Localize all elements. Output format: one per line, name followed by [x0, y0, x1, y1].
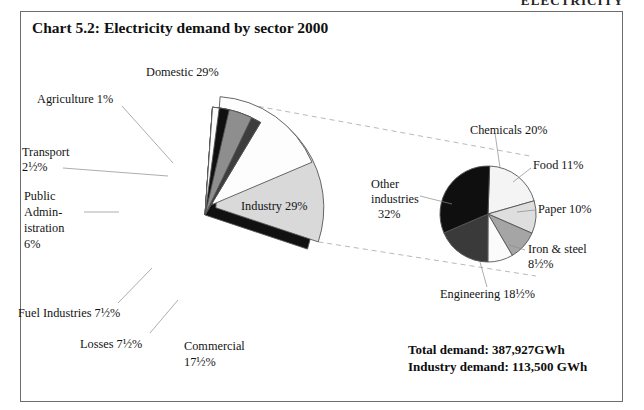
label-paper: Paper 10% [538, 203, 592, 217]
main-pie-slices [205, 97, 324, 249]
label-public-admin-line4: 6% [24, 238, 40, 252]
label-transport-line2: 2½% [22, 161, 48, 175]
label-food: Food 11% [533, 159, 583, 173]
totals-block: Total demand: 387,927GWh Industry demand… [408, 342, 587, 375]
label-other-industries-line3: 32% [378, 208, 401, 222]
label-public-admin-line2: Admin- [24, 206, 62, 220]
label-transport-line1: Transport [22, 146, 69, 160]
label-engineering: Engineering 18½% [440, 288, 535, 302]
label-other-industries-line2: industries [371, 193, 419, 207]
label-iron-steel-line2: 8½% [528, 258, 554, 272]
label-chemicals: Chemicals 20% [470, 124, 548, 138]
total-demand-text: Total demand: 387,927GWh [408, 342, 587, 359]
label-losses: Losses 7½% [80, 338, 142, 352]
industry-demand-text: Industry demand: 113,500 GWh [408, 359, 587, 376]
label-public-admin-line3: istration [24, 222, 64, 236]
label-fuel-industries: Fuel Industries 7½% [18, 307, 120, 321]
leader-engineering [480, 262, 487, 287]
label-industry: Industry 29% [241, 200, 308, 214]
label-iron-steel-line1: Iron & steel [528, 243, 587, 257]
label-agriculture: Agriculture 1% [37, 93, 113, 107]
leader-agriculture [122, 106, 173, 163]
label-public-admin-line1: Public [24, 190, 55, 204]
leader-transport [63, 168, 168, 176]
industry-pie-slices [440, 166, 536, 262]
label-commercial-line1: Commercial [184, 340, 245, 354]
label-domestic: Domestic 29% [146, 66, 219, 80]
label-commercial-line2: 17½% [184, 356, 216, 370]
leader-fuel-industries [118, 268, 152, 303]
label-other-industries-line1: Other [371, 178, 399, 192]
leader-losses [150, 300, 178, 333]
chart-page: ELECTRICITY Chart 5.2: Electricity deman… [0, 0, 644, 410]
